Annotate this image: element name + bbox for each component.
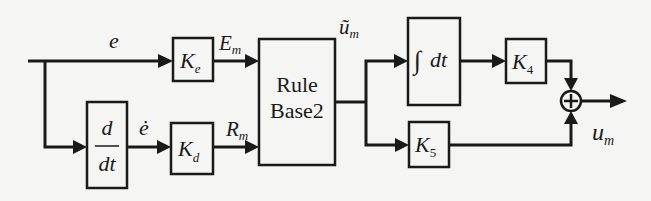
- signal-um-label: um: [592, 119, 614, 148]
- derivative-numerator: d: [102, 115, 114, 140]
- signal-edot-label: ė: [139, 115, 149, 140]
- ke-label: Ke: [179, 48, 201, 76]
- k4-label: K4: [511, 49, 534, 77]
- arrow-k5-into-sum: [564, 111, 578, 124]
- output-arrow: [610, 94, 627, 108]
- k5-label: K5: [414, 132, 436, 160]
- arrow-to-k4: [492, 54, 506, 68]
- arrow-to-integral: [394, 54, 408, 68]
- kd-label: Kd: [177, 136, 200, 165]
- signal-rm-label: Rm: [225, 117, 248, 143]
- integral-symbol: ∫: [412, 46, 423, 76]
- arrow-to-rule-em: [245, 54, 259, 68]
- branch-to-integral: [366, 61, 395, 102]
- arrow-to-k5: [395, 138, 409, 152]
- fuzzy-controller-block-diagram: Ke d dt Kd Rule Base2 ∫ dt K4 K5: [0, 0, 651, 201]
- arrow-to-ke: [158, 54, 173, 68]
- derivative-denominator: dt: [98, 151, 116, 176]
- k4-to-sum-line: [546, 61, 571, 80]
- signal-e-label: e: [109, 28, 119, 53]
- rule-base-line2: Base2: [270, 98, 324, 123]
- k5-to-sum-line: [449, 122, 571, 145]
- signal-um-tilde-label: ũm: [339, 15, 359, 41]
- arrow-k4-into-sum: [564, 78, 578, 91]
- diagram-canvas: Ke d dt Kd Rule Base2 ∫ dt K4 K5: [0, 0, 651, 201]
- branch-to-k5: [366, 102, 396, 145]
- signal-em-label: Em: [218, 31, 241, 57]
- arrow-to-kd: [157, 140, 171, 154]
- arrow-to-derivative: [73, 140, 87, 154]
- integral-dt: dt: [430, 47, 448, 72]
- branch-to-derivative: [45, 61, 74, 147]
- rule-base-line1: Rule: [276, 72, 318, 97]
